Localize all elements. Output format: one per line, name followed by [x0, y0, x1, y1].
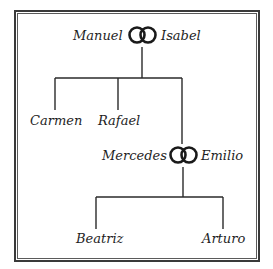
tree-connectors [0, 0, 273, 269]
person-mercedes: Mercedes [102, 149, 167, 162]
person-beatriz: Beatriz [76, 232, 123, 245]
wedding-rings-icon [130, 28, 156, 43]
person-manuel: Manuel [73, 29, 123, 42]
person-arturo: Arturo [202, 232, 245, 245]
wedding-rings-icon [171, 148, 197, 163]
person-carmen: Carmen [30, 114, 82, 127]
person-isabel: Isabel [161, 29, 201, 42]
person-rafael: Rafael [98, 114, 140, 127]
person-emilio: Emilio [201, 149, 243, 162]
